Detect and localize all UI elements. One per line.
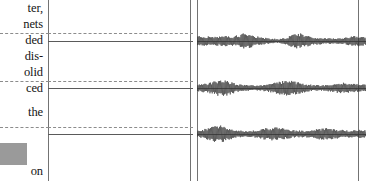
figure-thumbnail	[0, 143, 27, 165]
guide-line-dashed	[48, 127, 193, 128]
guide-line-dashed-gutter	[0, 33, 49, 34]
body-text-line: ded	[25, 34, 43, 47]
waveform-trace	[197, 30, 366, 52]
guide-line-dashed	[48, 81, 193, 82]
body-text-line: olid	[24, 66, 43, 79]
guide-line-dashed	[48, 33, 193, 34]
screenshot-root: ter,netsdeddis-olidcedtheon	[0, 0, 366, 181]
axis-line-a	[190, 0, 191, 181]
waveform-trace	[197, 123, 366, 145]
body-text-line: ced	[26, 82, 43, 95]
guide-line-solid	[48, 41, 193, 42]
body-text-line: ter,	[28, 2, 43, 15]
guide-line-dashed-gutter	[0, 81, 49, 82]
guide-line-dashed-gutter	[0, 127, 49, 128]
body-text-line: on	[31, 165, 43, 178]
gutter-rule	[48, 0, 49, 181]
body-text-line: nets	[23, 18, 43, 31]
waveform-trace	[197, 77, 366, 99]
body-text-line: the	[28, 106, 43, 119]
guide-line-solid	[48, 134, 193, 135]
guide-line-solid	[48, 88, 193, 89]
body-text-line: dis-	[25, 50, 43, 63]
